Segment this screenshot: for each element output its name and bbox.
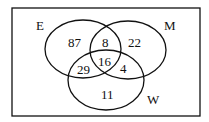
region-e-m: 8 (102, 35, 109, 50)
region-m-w: 4 (120, 61, 127, 76)
region-e-only: 87 (68, 35, 82, 50)
set-e-label: E (36, 18, 44, 33)
region-e-m-w: 16 (98, 54, 112, 69)
region-w-only: 11 (101, 87, 114, 102)
region-e-w: 29 (77, 62, 90, 77)
set-m-label: M (164, 18, 176, 33)
region-m-only: 22 (128, 35, 141, 50)
venn-diagram: E M W 87 8 22 29 16 4 11 (0, 0, 209, 122)
set-w-label: W (147, 92, 160, 107)
